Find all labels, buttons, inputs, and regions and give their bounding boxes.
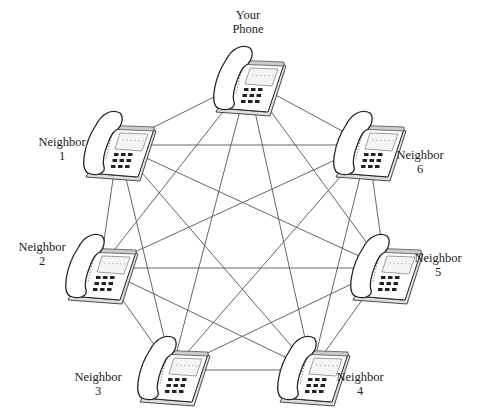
- phones: [66, 47, 423, 407]
- telephone-icon-n3: [138, 337, 210, 407]
- label-line1: Neighbor: [408, 251, 468, 265]
- label-line2: 1: [32, 149, 92, 163]
- label-line2: 2: [12, 254, 72, 268]
- label-neighbor-5: Neighbor 5: [408, 251, 468, 279]
- label-neighbor-2: Neighbor 2: [12, 240, 72, 268]
- label-line1: Your: [218, 8, 278, 22]
- network-diagram: [0, 0, 477, 419]
- label-neighbor-3: Neighbor 3: [68, 370, 128, 398]
- telephone-icon-n2: [66, 235, 138, 305]
- wire-n1-n4: [118, 145, 312, 370]
- label-line2: 3: [68, 384, 128, 398]
- label-line1: Neighbor: [390, 148, 450, 162]
- label-line1: Neighbor: [12, 240, 72, 254]
- label-line1: Neighbor: [32, 135, 92, 149]
- label-line1: Neighbor: [68, 370, 128, 384]
- label-line2: Phone: [218, 22, 278, 36]
- label-your-phone: Your Phone: [218, 8, 278, 36]
- connection-lines: [100, 80, 385, 370]
- label-neighbor-1: Neighbor 1: [32, 135, 92, 163]
- telephone-icon-you: [214, 47, 286, 117]
- label-line2: 4: [330, 384, 390, 398]
- telephone-icon-n1: [84, 112, 156, 182]
- label-neighbor-4: Neighbor 4: [330, 370, 390, 398]
- label-line2: 6: [390, 162, 450, 176]
- label-neighbor-6: Neighbor 6: [390, 148, 450, 176]
- label-line1: Neighbor: [330, 370, 390, 384]
- label-line2: 5: [408, 265, 468, 279]
